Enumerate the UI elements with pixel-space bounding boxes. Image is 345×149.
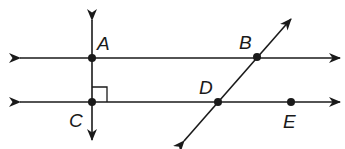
label-a: A — [96, 33, 110, 54]
label-e: E — [283, 111, 296, 132]
point-a — [88, 54, 96, 62]
point-e — [287, 98, 295, 106]
geometry-diagram: A B C D E — [0, 0, 345, 149]
label-b: B — [239, 32, 252, 53]
point-c — [88, 98, 96, 106]
point-d — [214, 98, 222, 106]
point-b — [253, 53, 261, 61]
label-d: D — [199, 77, 213, 98]
label-c: C — [69, 110, 83, 131]
